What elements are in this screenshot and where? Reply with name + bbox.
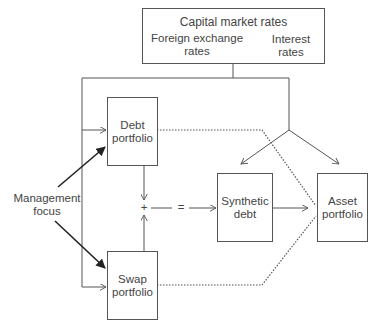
swap-line1: Swap <box>118 273 147 286</box>
fx-line2: rates <box>147 45 247 58</box>
management-arrow-swap <box>55 221 105 268</box>
debt-line1: Debt <box>120 119 144 132</box>
foreign-exchange-rates-label: Foreign exchange rates <box>147 32 247 58</box>
arrow-to-asset <box>289 130 339 164</box>
ir-line1: Interest <box>261 33 321 46</box>
synthetic-debt-box: Synthetic debt <box>217 173 273 242</box>
capital-market-rates-title: Capital market rates <box>143 16 324 29</box>
mgmt-line2: focus <box>8 205 86 218</box>
interest-rates-label: Interest rates <box>261 33 321 59</box>
management-focus-label: Management focus <box>8 192 86 218</box>
debt-portfolio-box: Debt portfolio <box>107 97 158 166</box>
synthetic-line2: debt <box>234 208 256 221</box>
ir-line2: rates <box>261 46 321 59</box>
asset-line2: portfolio <box>322 208 363 221</box>
arrow-to-synthetic <box>241 130 289 164</box>
debt-line2: portfolio <box>112 132 153 145</box>
asset-line1: Asset <box>328 195 357 208</box>
equals-operator: = <box>176 201 186 214</box>
fx-line1: Foreign exchange <box>147 32 247 45</box>
capital-market-rates-box: Capital market rates Foreign exchange ra… <box>142 8 325 64</box>
swap-portfolio-box: Swap portfolio <box>107 251 158 320</box>
mgmt-line1: Management <box>8 192 86 205</box>
swap-line2: portfolio <box>112 286 153 299</box>
synthetic-line1: Synthetic <box>221 195 268 208</box>
asset-portfolio-box: Asset portfolio <box>317 173 368 242</box>
plus-operator: + <box>139 201 149 214</box>
